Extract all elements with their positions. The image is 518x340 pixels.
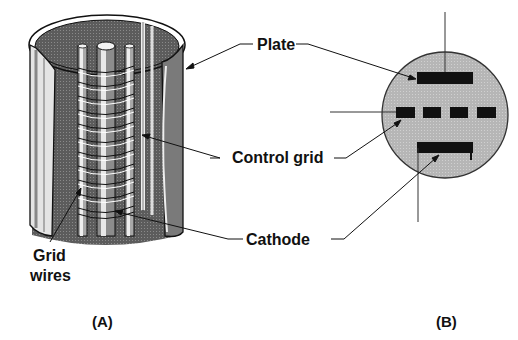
label-grid-wires-line1: Grid [33,248,66,264]
panel-label-b: (B) [436,314,457,329]
triode-symbol [296,12,508,239]
plate-electrode [417,72,473,84]
label-grid-wires-line2: wires [30,268,71,284]
tube-cutaway [29,15,253,245]
label-cathode: Cathode [246,232,310,248]
plate-left-section [30,45,55,236]
label-control-grid: Control grid [232,150,324,166]
panel-label-a: (A) [92,314,113,329]
label-plate: Plate [257,37,295,53]
cathode-electrode [417,142,473,153]
